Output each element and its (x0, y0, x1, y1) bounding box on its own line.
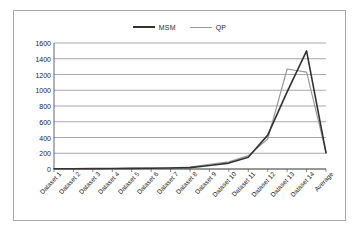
legend-label: MSM (159, 24, 176, 31)
x-tick-label: Average (314, 171, 335, 193)
chart-legend: MSMQP (14, 21, 345, 33)
y-axis: 16001400120010008006004002000 (22, 43, 51, 169)
series-line-qp (54, 69, 326, 169)
y-tick-label: 800 (39, 103, 51, 110)
legend-entry-msm[interactable]: MSM (133, 24, 176, 31)
gridlines (54, 43, 326, 169)
legend-swatch-icon (190, 27, 212, 28)
y-tick-label: 1600 (35, 40, 51, 47)
y-tick-label: 1200 (35, 71, 51, 78)
y-tick-label: 400 (39, 134, 51, 141)
legend-swatch-icon (133, 26, 155, 28)
series-line-msm (54, 51, 326, 169)
y-tick-label: 200 (39, 150, 51, 157)
legend-label: QP (216, 24, 227, 31)
x-axis: Dataset 1Dataset 2Dataset 3Dataset 4Data… (54, 171, 326, 229)
y-tick-label: 0 (47, 166, 51, 173)
data-series-group (54, 51, 326, 169)
y-tick-label: 1000 (35, 87, 51, 94)
plot-area (54, 43, 326, 169)
plot-svg (54, 43, 326, 169)
chart-frame: MSMQP 16001400120010008006004002000 Data… (13, 10, 346, 221)
legend-entry-qp[interactable]: QP (190, 24, 227, 31)
y-tick-label: 1400 (35, 55, 51, 62)
y-tick-label: 600 (39, 118, 51, 125)
